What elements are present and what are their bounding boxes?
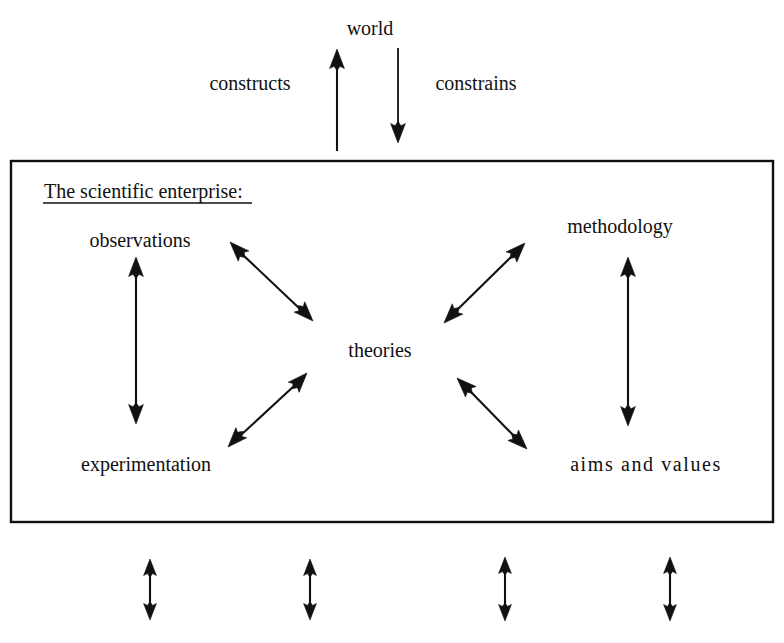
label-experimentation: experimentation <box>81 453 211 476</box>
experimentation-theories-arrow <box>223 368 313 452</box>
methodology-theories-arrow <box>439 238 531 328</box>
label-aims-and-values: aims and values <box>570 453 722 475</box>
world-constrains-arrow-down <box>391 48 406 143</box>
external-link-arrow-2 <box>304 559 317 620</box>
label-constructs: constructs <box>209 72 290 94</box>
label-methodology: methodology <box>567 215 673 238</box>
methodology-aims-arrow <box>621 257 636 426</box>
label-observations: observations <box>89 229 190 251</box>
external-link-arrow-1 <box>144 559 157 620</box>
label-constrains: constrains <box>435 72 516 94</box>
external-link-arrow-3 <box>499 557 512 621</box>
external-link-arrow-4 <box>664 557 677 621</box>
label-world: world <box>347 17 394 39</box>
observations-experimentation-arrow <box>129 257 144 424</box>
observations-theories-arrow <box>225 237 319 326</box>
aims-theories-arrow <box>452 373 532 454</box>
scientific-enterprise-diagram: world constructs constrains The scientif… <box>0 0 784 643</box>
diagram-canvas: world constructs constrains The scientif… <box>0 0 784 643</box>
box-heading: The scientific enterprise: <box>44 180 243 203</box>
world-constructs-arrow-up <box>330 49 345 151</box>
label-theories: theories <box>348 339 412 361</box>
